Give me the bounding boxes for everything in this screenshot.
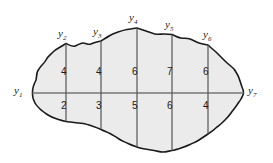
- strip-value-lower-1: 2: [61, 101, 67, 111]
- strip-value-upper-4: 7: [167, 67, 173, 77]
- ordinate-label-y7: y7: [248, 85, 256, 99]
- strip-value-lower-3: 5: [132, 101, 138, 111]
- region-outline: [32, 28, 243, 152]
- strip-value-lower-2: 3: [96, 101, 102, 111]
- strip-value-upper-5: 6: [203, 67, 209, 77]
- strip-value-upper-1: 4: [61, 67, 67, 77]
- strip-value-upper-2: 4: [96, 67, 102, 77]
- ordinate-label-y1: y1: [14, 85, 22, 99]
- ordinate-label-y2: y2: [58, 28, 66, 42]
- region-diagram: y1 y2 y3 y4 y5 y6 y7 4 4 6 7 6 2 3 5 6 4: [0, 0, 273, 163]
- ordinate-label-y3: y3: [93, 26, 101, 40]
- strip-value-lower-4: 6: [167, 101, 173, 111]
- strip-value-lower-5: 4: [203, 101, 209, 111]
- ordinate-label-y4: y4: [129, 12, 137, 26]
- ordinate-label-y5: y5: [165, 19, 173, 33]
- strip-value-upper-3: 6: [132, 67, 138, 77]
- ordinate-label-y6: y6: [203, 29, 211, 43]
